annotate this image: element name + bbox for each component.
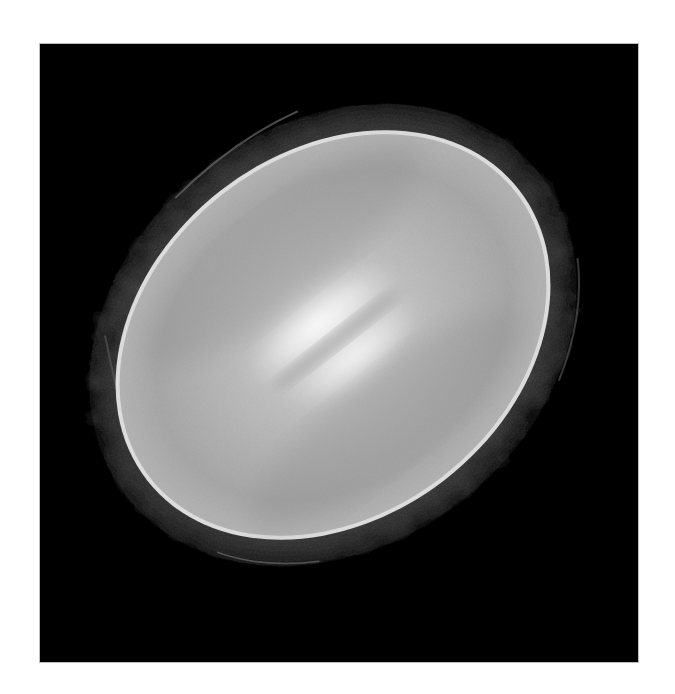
photo-panel: Oval pearly shell with iridescent interi… bbox=[40, 44, 638, 662]
shell-photo bbox=[40, 44, 638, 662]
